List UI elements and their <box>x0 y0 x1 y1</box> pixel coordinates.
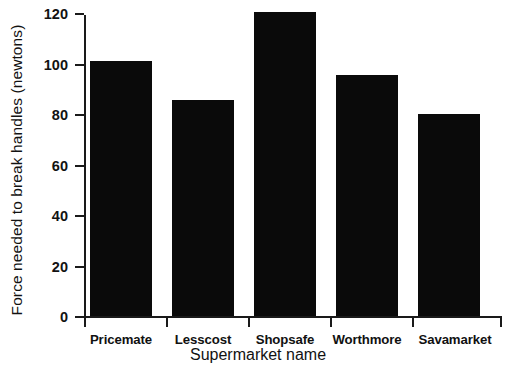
y-axis-line <box>84 15 86 318</box>
y-tick-label-20: 20 <box>52 259 68 275</box>
bar-chart: Force needed to break handles (newtons) … <box>0 0 516 379</box>
x-axis-line <box>84 316 502 318</box>
bar-worthmore <box>336 75 398 316</box>
x-tick-0 <box>84 318 86 327</box>
bar-shopsafe <box>254 12 316 316</box>
bar-savamarket <box>418 114 480 316</box>
x-category-shopsafe: Shopsafe <box>244 332 326 347</box>
y-tick-60: 60 <box>75 165 84 167</box>
y-axis-title-text: Force needed to break handles (newtons) <box>8 25 26 316</box>
x-tick-4 <box>412 318 414 327</box>
x-axis-title: Supermarket name <box>0 346 516 364</box>
bar-pricemate <box>90 61 152 316</box>
bar-lesscost <box>172 100 234 316</box>
x-category-worthmore: Worthmore <box>326 332 408 347</box>
x-tick-3 <box>330 318 332 327</box>
x-category-pricemate: Pricemate <box>80 332 162 347</box>
x-tick-1 <box>166 318 168 327</box>
x-category-savamarket: Savamarket <box>410 332 500 347</box>
y-tick-label-100: 100 <box>44 57 68 73</box>
y-tick-label-40: 40 <box>52 208 68 224</box>
plot-area: 0 20 40 60 80 100 120 <box>84 12 502 318</box>
y-tick-label-60: 60 <box>52 158 68 174</box>
x-category-lesscost: Lesscost <box>162 332 244 347</box>
y-axis-title: Force needed to break handles (newtons) <box>0 0 34 340</box>
y-tick-label-0: 0 <box>60 309 68 325</box>
y-tick-120: 120 <box>75 13 84 15</box>
y-tick-80: 80 <box>75 114 84 116</box>
x-tick-5 <box>500 318 502 327</box>
y-tick-100: 100 <box>75 64 84 66</box>
y-tick-label-80: 80 <box>52 107 68 123</box>
x-tick-2 <box>248 318 250 327</box>
y-tick-label-120: 120 <box>44 6 68 22</box>
y-tick-40: 40 <box>75 215 84 217</box>
y-tick-20: 20 <box>75 266 84 268</box>
y-tick-0: 0 <box>75 316 84 318</box>
